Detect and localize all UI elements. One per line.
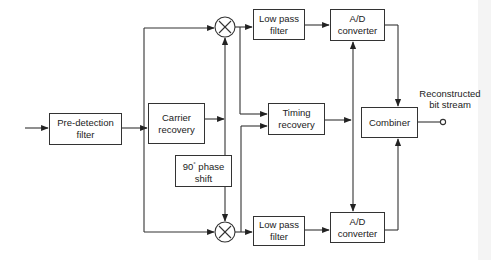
ad-bottom-label-2: converter — [338, 228, 378, 240]
phase-shift-label-1: 90° phase — [183, 158, 225, 173]
pre-detection-filter-block: Pre-detection filter — [49, 113, 122, 145]
lpf-bottom-label-2: filter — [270, 231, 288, 243]
pre-detection-filter-label-2: filter — [77, 129, 95, 141]
output-label: Reconstructed bit stream — [415, 88, 485, 110]
carrier-recovery-block: Carrier recovery — [148, 103, 205, 144]
ad-top-label-2: converter — [338, 25, 378, 37]
ad-top-label-1: A/D — [350, 13, 366, 25]
phase-shift-label-2: shift — [195, 173, 212, 185]
ad-converter-bottom-block: A/D converter — [330, 212, 385, 243]
phase-shift-block: 90° phase shift — [175, 155, 232, 187]
carrier-recovery-label-1: Carrier — [162, 112, 191, 124]
output-label-line-1: Reconstructed — [415, 88, 485, 99]
carrier-recovery-label-2: recovery — [158, 124, 194, 136]
ad-bottom-label-1: A/D — [350, 216, 366, 228]
low-pass-filter-bottom-block: Low pass filter — [253, 216, 305, 246]
timing-recovery-label-2: recovery — [278, 119, 314, 131]
combiner-block: Combiner — [361, 107, 418, 138]
output-label-line-2: bit stream — [415, 99, 485, 110]
lpf-top-label-2: filter — [270, 25, 288, 37]
lpf-top-label-1: Low pass — [259, 13, 299, 25]
lpf-bottom-label-1: Low pass — [259, 219, 299, 231]
ad-converter-top-block: A/D converter — [330, 9, 385, 41]
combiner-label: Combiner — [369, 117, 410, 129]
low-pass-filter-top-block: Low pass filter — [253, 9, 305, 40]
timing-recovery-label-1: Timing — [282, 107, 310, 119]
pre-detection-filter-label-1: Pre-detection — [57, 117, 114, 129]
timing-recovery-block: Timing recovery — [268, 103, 325, 135]
